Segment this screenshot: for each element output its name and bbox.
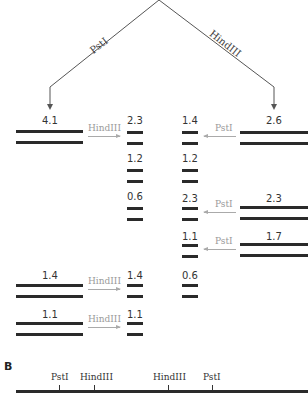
- arrow-left-icon: [204, 212, 236, 213]
- gel-band: [182, 131, 198, 134]
- enzyme-label: PstI: [215, 124, 233, 133]
- product-size: 0.6: [182, 271, 198, 281]
- gel-band: [127, 169, 143, 172]
- site-label: PstI: [51, 372, 69, 382]
- arrow-right-icon: [88, 136, 120, 137]
- product-size: 1.2: [127, 154, 143, 164]
- fragment-size: 1.1: [42, 310, 58, 320]
- gel-band: [127, 218, 143, 221]
- gel-band: [16, 284, 83, 287]
- dna-map-line: [16, 390, 308, 393]
- digest-tree: [0, 0, 308, 115]
- enzyme-label: PstI: [215, 237, 233, 246]
- gel-band: [16, 130, 83, 133]
- fragment-size: 4.1: [42, 116, 58, 126]
- arrow-left-icon: [204, 249, 236, 250]
- product-size: 1.1: [127, 310, 143, 320]
- gel-band: [127, 284, 143, 287]
- gel-band: [16, 141, 83, 144]
- gel-band: [16, 322, 83, 325]
- arrow-right-icon: [88, 327, 120, 328]
- gel-band: [16, 295, 83, 298]
- enzyme-label: PstI: [215, 200, 233, 209]
- gel-band: [240, 206, 308, 209]
- gel-band: [240, 254, 308, 257]
- gel-band: [182, 284, 198, 287]
- gel-band: [240, 142, 308, 145]
- gel-band: [127, 180, 143, 183]
- gel-band: [182, 218, 198, 221]
- product-size: 2.3: [127, 116, 143, 126]
- gel-band: [240, 131, 308, 134]
- gel-band: [182, 207, 198, 210]
- site-label: PstI: [203, 372, 221, 382]
- gel-band: [127, 295, 143, 298]
- gel-band: [182, 244, 198, 247]
- panel-label: B: [4, 360, 12, 373]
- arrow-left-icon: [204, 136, 236, 137]
- product-size: 2.3: [182, 194, 198, 204]
- fragment-size: 1.7: [266, 232, 282, 242]
- gel-band: [240, 243, 308, 246]
- product-size: 1.1: [182, 232, 198, 242]
- product-size: 0.6: [127, 192, 143, 202]
- gel-band: [182, 142, 198, 145]
- product-size: 1.4: [182, 116, 198, 126]
- pstI-branch-line: [50, 0, 159, 106]
- enzyme-label: HindIII: [88, 124, 121, 133]
- gel-band: [182, 169, 198, 172]
- gel-band: [127, 333, 143, 336]
- hindIII-branch-line: [159, 0, 274, 106]
- gel-band: [182, 255, 198, 258]
- gel-band: [240, 217, 308, 220]
- arrow-right-icon: [88, 289, 120, 290]
- gel-band: [127, 142, 143, 145]
- gel-band: [16, 333, 83, 336]
- gel-band: [182, 295, 198, 298]
- enzyme-label: HindIII: [88, 315, 121, 324]
- arrow-down-icon: [271, 104, 277, 110]
- site-label: HindIII: [153, 372, 186, 382]
- gel-band: [182, 180, 198, 183]
- gel-band: [127, 322, 143, 325]
- fragment-size: 2.3: [266, 194, 282, 204]
- enzyme-label: HindIII: [88, 277, 121, 286]
- gel-band: [127, 207, 143, 210]
- gel-band: [127, 131, 143, 134]
- product-size: 1.2: [182, 154, 198, 164]
- site-label: HindIII: [80, 372, 113, 382]
- product-size: 1.4: [127, 271, 143, 281]
- fragment-size: 1.4: [42, 271, 58, 281]
- fragment-size: 2.6: [266, 116, 282, 126]
- arrow-down-icon: [47, 104, 53, 110]
